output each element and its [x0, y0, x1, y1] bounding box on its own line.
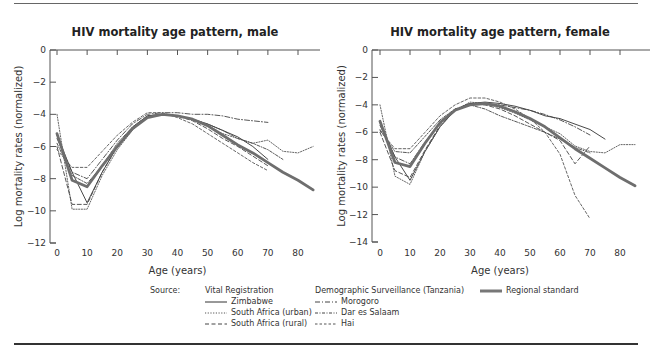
y-tick-label: −12 [27, 238, 46, 248]
legend-swatch-solid [205, 299, 227, 305]
legend-item-zimbabwe: Zimbabwe [205, 296, 312, 307]
legend-swatch-dashed [205, 321, 227, 327]
legend-group-title: Vital Registration [205, 285, 274, 296]
legend-item-morogoro: Morogoro [315, 296, 464, 307]
legend-demographic-surveillance: Demographic Surveillance (Tanzania) Moro… [315, 285, 464, 329]
series-line-morogoro [57, 113, 268, 179]
legend-item-south-africa-rural: South Africa (rural) [205, 318, 312, 329]
legend-item-hai: Hai [315, 318, 464, 329]
chart-title: HIV mortality age pattern, male [72, 25, 279, 39]
y-tick-label: −6 [355, 127, 369, 137]
x-tick-label: 0 [54, 248, 60, 258]
legend-regional-standard: Regional standard [480, 285, 579, 296]
series-line-dar-es-salaam [380, 105, 590, 153]
legend-label: Hai [341, 318, 354, 329]
y-tick-label: −2 [33, 77, 46, 87]
legend-group-title: Demographic Surveillance (Tanzania) [315, 285, 464, 296]
legend-source-label: Source: [150, 285, 180, 296]
legend-swatch-longdash [315, 310, 337, 316]
x-axis-label: Age (years) [149, 265, 207, 276]
x-tick-label: 70 [584, 248, 596, 258]
x-tick-label: 80 [292, 248, 304, 258]
x-tick-label: 0 [377, 248, 383, 258]
legend-label: Regional standard [506, 285, 579, 296]
legend-label: Zimbabwe [231, 296, 273, 307]
y-axis-label: Log mortality rates (normalized) [336, 65, 347, 227]
x-tick-label: 10 [404, 248, 416, 258]
legend-swatch-thick [480, 288, 502, 294]
x-tick-label: 50 [524, 248, 536, 258]
y-tick-label: −12 [349, 210, 368, 220]
legend-label: South Africa (rural) [231, 318, 307, 329]
series-line-regional-standard [380, 104, 635, 186]
x-tick-label: 60 [554, 248, 566, 258]
x-tick-label: 40 [172, 248, 184, 258]
legend-source: Source: [150, 285, 180, 296]
y-tick-label: −6 [33, 142, 47, 152]
x-tick-label: 80 [614, 248, 626, 258]
legend-label: Morogoro [341, 296, 379, 307]
x-tick-label: 20 [434, 248, 446, 258]
legend-item-south-africa-urban: South Africa (urban) [205, 307, 312, 318]
y-tick-label: −10 [349, 182, 368, 192]
legend-swatch-dashdot [315, 299, 337, 305]
y-tick-label: −4 [355, 100, 369, 110]
series-line-south-africa-rural [57, 114, 268, 204]
series-line-regional-standard [57, 114, 313, 190]
y-tick-label: 0 [362, 45, 368, 55]
series-line-dar-es-salaam [57, 114, 283, 183]
x-tick-label: 30 [464, 248, 476, 258]
legend-label: Dar es Salaam [341, 307, 399, 318]
x-tick-label: 20 [112, 248, 124, 258]
y-tick-label: −4 [33, 109, 47, 119]
series-line-zimbabwe [57, 114, 268, 203]
x-tick-label: 30 [142, 248, 154, 258]
legend-swatch-shortdash [315, 321, 337, 327]
x-axis-label: Age (years) [471, 265, 529, 276]
bottom-rule [14, 343, 638, 345]
legend-label: South Africa (urban) [231, 307, 312, 318]
y-tick-label: −8 [33, 174, 47, 184]
legend-vital-registration: Vital Registration Zimbabwe South Africa… [205, 285, 312, 329]
x-tick-label: 10 [81, 248, 93, 258]
legend-item-dar-es-salaam: Dar es Salaam [315, 307, 464, 318]
panel-female: HIV mortality age pattern, female0−2−4−6… [336, 25, 650, 276]
series-line-hai [57, 113, 268, 171]
series-line-hai [380, 98, 590, 219]
y-tick-label: 0 [40, 45, 46, 55]
y-tick-label: −8 [355, 155, 369, 165]
series-line-zimbabwe [380, 102, 605, 180]
x-tick-label: 60 [232, 248, 244, 258]
legend-swatch-dotted [205, 310, 227, 316]
chart-title: HIV mortality age pattern, female [390, 25, 610, 39]
panel-male: HIV mortality age pattern, male0−2−4−6−8… [13, 25, 320, 276]
y-axis-label: Log mortality rates (normalized) [13, 66, 24, 228]
series-line-south-africa-urban [57, 114, 313, 209]
y-tick-label: −14 [349, 237, 368, 247]
x-tick-label: 40 [494, 248, 506, 258]
series-line-morogoro [380, 104, 590, 164]
y-tick-label: −10 [27, 206, 46, 216]
x-tick-label: 70 [262, 248, 274, 258]
y-tick-label: −2 [355, 72, 368, 82]
x-tick-label: 50 [202, 248, 214, 258]
